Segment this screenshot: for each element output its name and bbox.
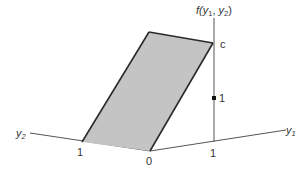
y2-axis-label: y2 [15,127,27,141]
f-axis-label: f(y1, y2) [196,4,232,18]
joint-density-diagram: f(y1, y2) c 1 y2 y1 1 0 1 [0,0,307,173]
f-one-label: 1 [219,92,225,104]
y1-axis-label: y1 [285,124,296,138]
origin-label: 0 [146,155,152,167]
density-region [82,32,213,151]
c-label: c [220,38,226,50]
y2-one-label: 1 [77,146,83,158]
y1-one-label: 1 [210,147,216,159]
f-one-marker [212,96,216,100]
y1-axis [150,130,286,151]
